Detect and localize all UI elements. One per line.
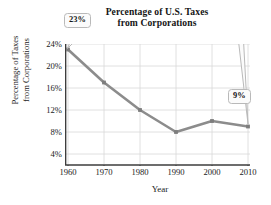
horizontal-gridlines: [65, 44, 250, 154]
y-tick-label: 16%: [22, 83, 62, 93]
y-tick-label: 4%: [22, 149, 62, 159]
y-tick-label: 8%: [22, 127, 62, 137]
x-axis-tick-labels: 1960 1970 1980 1990 2000 2010: [40, 167, 271, 181]
chart-title-line-2: from Corporations: [92, 18, 222, 29]
y-tick-label: 20%: [22, 61, 62, 71]
chart-title-line-1: Percentage of U.S. Taxes: [92, 7, 222, 18]
y-tick-label: 12%: [22, 105, 62, 115]
callout-tail-9: [237, 44, 248, 124]
chart-title: Percentage of U.S. Taxes from Corporatio…: [92, 7, 222, 28]
x-tick-label: 1990: [156, 167, 196, 177]
annotation-callout-9-percent: 9%: [228, 89, 251, 104]
x-tick-label: 2010: [228, 167, 268, 177]
vertical-gridlines: [68, 44, 248, 164]
y-axis-tick-labels: 24% 20% 16% 12% 8% 4%: [16, 44, 62, 164]
chart-figure: Percentage of U.S. Taxes from Corporatio…: [0, 0, 271, 205]
data-series-line: [68, 50, 248, 133]
x-axis-title: Year: [60, 184, 260, 194]
annotation-callout-23-percent: 23%: [64, 13, 91, 28]
x-tick-label: 2000: [192, 167, 232, 177]
x-tick-label: 1980: [120, 167, 160, 177]
plot-area: [65, 44, 250, 164]
x-tick-label: 1970: [84, 167, 124, 177]
x-tick-label: 1960: [48, 167, 88, 177]
y-tick-label: 24%: [22, 39, 62, 49]
callout-leader-lines: [68, 44, 249, 124]
